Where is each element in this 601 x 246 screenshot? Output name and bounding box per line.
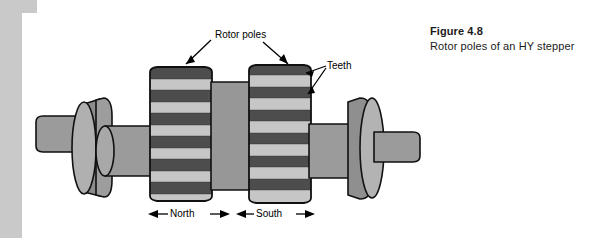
label-rotor-poles-text: Rotor poles: [215, 29, 266, 40]
label-north-text: North: [170, 208, 194, 219]
figure-caption-title: Figure 4.8: [430, 24, 580, 39]
label-south: South: [256, 208, 282, 220]
figure-caption-body: Rotor poles of an HY stepper: [430, 39, 580, 54]
rotor-pole-south: [247, 62, 313, 207]
label-rotor-poles: Rotor poles: [215, 29, 261, 41]
shaft-left-thick: [96, 126, 156, 176]
rotor-teeth-north: [148, 67, 214, 204]
figure-caption: Figure 4.8 Rotor poles of an HY stepper: [430, 24, 580, 54]
figure-page: Rotor poles Teeth North South Figure 4.8…: [0, 0, 601, 246]
label-south-text: South: [256, 208, 282, 219]
center-hub: [211, 82, 251, 190]
shaft-right-thick: [309, 124, 352, 178]
rotor-pole-north: [148, 64, 214, 205]
label-teeth: Teeth: [327, 60, 351, 72]
label-teeth-text: Teeth: [327, 60, 351, 71]
rotor-teeth-south: [247, 65, 313, 203]
shaft-right-thin: [374, 132, 420, 162]
label-north: North: [170, 208, 194, 220]
